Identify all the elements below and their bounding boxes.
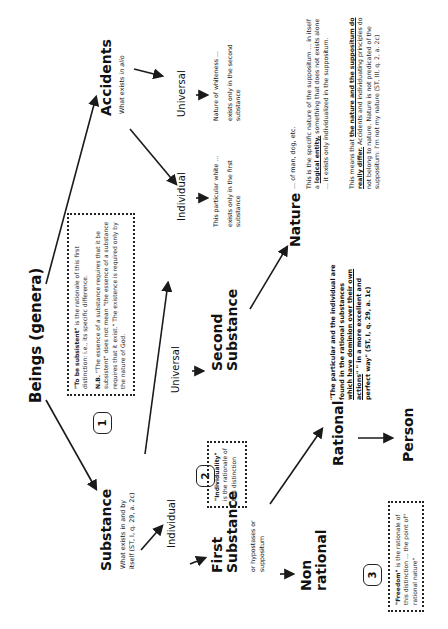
substance-desc-line2: itself (ST, I, q. 29, a. 2c) — [128, 493, 137, 569]
diagram-canvas: Beings (genera) Substance What exists in… — [0, 0, 448, 629]
arrow-second-to-nature — [250, 247, 287, 309]
acc-uni-desc-1: Nature of whiteness ... — [212, 44, 221, 121]
node-substance-label: Substance — [98, 489, 114, 571]
node-nature-label: Nature — [287, 193, 303, 247]
note-1-nb: N.B. "The essence of a substance require… — [94, 220, 128, 389]
note-badge-1: 1 — [93, 412, 112, 434]
note-2-text: is the rationale of this distinction — [221, 448, 236, 501]
node-substance-universal: Universal — [170, 346, 182, 393]
note-3-bold: "Freedom" — [394, 569, 401, 605]
first-substance-desc-1: or hypostases or — [249, 520, 258, 572]
arrow-accidents-to-universal — [134, 69, 162, 76]
acc-ind-desc-1: This particular white ... — [212, 156, 221, 227]
acc-ind-desc-2: exists only in the first — [226, 156, 235, 227]
node-accidents-label: Accidents — [98, 39, 114, 116]
accidents-desc-italic: in alio — [118, 55, 126, 74]
nature-p2-a: This means that — [348, 137, 355, 189]
node-accident-individual: Individual — [176, 172, 188, 221]
arrow-beings-to-substance — [46, 400, 96, 489]
non-rational-line2: rational — [314, 529, 329, 591]
note-1-bold: "To be subsistent" — [73, 327, 80, 389]
acc-uni-desc-2: exists only in the second — [226, 44, 235, 121]
node-accidents-desc: What exists in alio — [119, 55, 126, 114]
acc-uni-desc-3: substance — [234, 44, 243, 121]
node-second-substance: Second Substance — [210, 289, 239, 371]
quote-part-a: "The particular and the individual are f… — [329, 264, 346, 400]
arrow-individual-to-first — [190, 558, 205, 564]
second-substance-line1: Second — [210, 289, 225, 371]
note-1-nb-text: "The essence of a substance requires tha… — [94, 222, 126, 389]
nature-paragraph-1: This is the specific nature of the suppo… — [305, 14, 330, 189]
non-rational-line1: Non — [299, 529, 314, 591]
first-substance-desc-2: suppositum — [258, 520, 267, 572]
node-person: Person — [400, 407, 416, 462]
node-non-rational: Non rational — [299, 529, 328, 591]
arrow-accidents-to-individual — [130, 129, 176, 184]
arrow-first-to-rational — [270, 429, 322, 504]
accidents-desc-prefix: What exists — [118, 75, 126, 114]
accident-individual-desc: This particular white ... exists only in… — [212, 156, 243, 227]
substance-desc-line1: What exists in and by — [119, 493, 128, 569]
accident-universal-desc: Nature of whiteness ... exists only in t… — [212, 44, 243, 121]
nature-p1-logical-entity: logical entity, — [313, 136, 320, 184]
arrow-substance-to-universal — [145, 283, 168, 454]
note-badge-3: 3 — [363, 564, 382, 586]
diagram-title: Beings (genera) — [28, 268, 45, 403]
node-substance-desc: What exists in and by itself (ST, I, q. … — [119, 493, 137, 569]
node-rational: Rational — [330, 400, 346, 466]
note-box-2: "Individuality" is the rationale of this… — [207, 441, 247, 508]
note-1-nb-label: N.B. — [94, 375, 101, 389]
nature-paragraph-2: This means that the nature and the suppo… — [348, 14, 381, 189]
rational-quote: "The particular and the individual are f… — [329, 260, 372, 400]
arrow-substance-to-individual — [141, 526, 162, 550]
node-substance-individual: Individual — [166, 499, 178, 548]
note-box-1: "To be subsistent" is the rationale of t… — [67, 213, 135, 396]
first-substance-desc: or hypostases or suppositum — [249, 520, 266, 572]
second-substance-line2: Substance — [225, 289, 240, 371]
acc-ind-desc-3: substance — [234, 156, 243, 227]
nature-examples: ... of man, dog, etc. — [290, 126, 297, 189]
note-1-main: "To be subsistent" is the rationale of t… — [73, 220, 90, 389]
node-accident-universal: Universal — [176, 70, 188, 117]
note-box-3: "Freedom" is the rationale of this disti… — [388, 501, 424, 612]
note-2-bold: "Individuality" — [213, 452, 220, 501]
